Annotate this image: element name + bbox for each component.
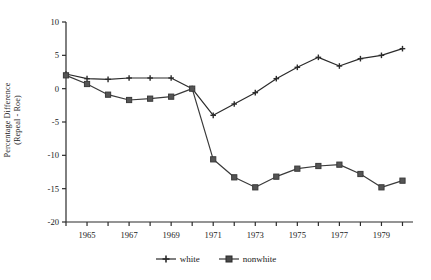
legend-label-white: white xyxy=(180,254,200,264)
x-tick-label: 1975 xyxy=(289,230,306,240)
chart-plot-area: 1050-5-10-15-20 196519671969197119731975… xyxy=(0,0,431,280)
y-tick-label: 10 xyxy=(50,17,59,27)
axes xyxy=(66,22,413,222)
data-point-marker xyxy=(316,163,321,168)
data-point-marker xyxy=(232,175,237,180)
data-point-marker xyxy=(105,92,110,97)
legend-key-plus-icon xyxy=(155,254,177,264)
data-point-marker xyxy=(126,97,131,102)
data-point-marker xyxy=(148,96,153,101)
x-tick-label: 1973 xyxy=(247,230,264,240)
data-point-marker xyxy=(295,166,300,171)
x-tick-label: 1967 xyxy=(120,230,138,240)
data-point-marker xyxy=(358,171,363,176)
x-tick-group: 19651967196919711973197519771979 xyxy=(66,222,402,240)
x-tick-label: 1979 xyxy=(373,230,390,240)
y-tick-group: 1050-5-10-15-20 xyxy=(48,17,66,227)
y-tick-label: -5 xyxy=(52,117,59,127)
legend-key-square-icon xyxy=(218,254,240,264)
data-point-marker xyxy=(84,81,89,86)
legend-item-nonwhite[interactable]: nonwhite xyxy=(218,254,277,264)
x-tick-label: 1977 xyxy=(331,230,349,240)
data-point-marker xyxy=(337,162,342,167)
legend-item-white[interactable]: white xyxy=(155,254,200,264)
y-tick-label: 0 xyxy=(55,84,59,94)
data-series-group xyxy=(63,46,405,190)
series-line-nonwhite xyxy=(66,75,402,187)
figure: Percentage Difference (Repeal - Roe) 105… xyxy=(0,0,431,280)
legend-label-nonwhite: nonwhite xyxy=(243,254,277,264)
y-tick-label: -15 xyxy=(48,184,59,194)
x-tick-label: 1965 xyxy=(78,230,95,240)
y-tick-label: -20 xyxy=(48,217,59,227)
y-tick-label: -10 xyxy=(48,150,59,160)
x-tick-label: 1969 xyxy=(163,230,180,240)
data-point-marker xyxy=(400,178,405,183)
data-point-marker xyxy=(169,94,174,99)
data-point-marker xyxy=(379,185,384,190)
chart-legend: white nonwhite xyxy=(0,254,431,264)
y-tick-label: 5 xyxy=(55,50,59,60)
data-point-marker xyxy=(253,185,258,190)
data-point-marker xyxy=(63,73,68,78)
data-point-marker xyxy=(190,86,195,91)
series-white xyxy=(63,46,405,118)
data-point-marker xyxy=(274,174,279,179)
data-point-marker xyxy=(211,157,216,162)
x-tick-label: 1971 xyxy=(205,230,222,240)
series-nonwhite xyxy=(63,73,405,190)
